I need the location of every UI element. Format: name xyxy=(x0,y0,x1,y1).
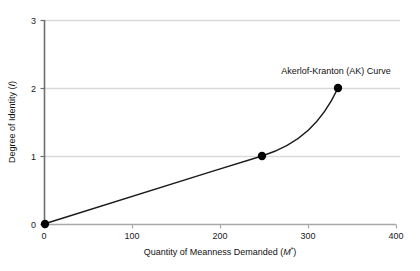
x-tick-label-300: 300 xyxy=(300,231,315,241)
y-tick-label-1: 1 xyxy=(31,152,36,162)
x-axis-title: Quantity of Meanness Demanded (M*) xyxy=(144,246,297,258)
y-tick-labels: 0 1 2 3 xyxy=(31,16,36,230)
y-axis-title: Degree of Identity (I) xyxy=(7,81,17,163)
y-axis-title-close: ) xyxy=(7,81,17,84)
x-axis-title-close: ) xyxy=(293,247,296,257)
y-tick-label-2: 2 xyxy=(31,84,36,94)
x-tick-labels: 0 100 200 300 400 xyxy=(41,231,403,241)
x-tick-label-200: 200 xyxy=(212,231,227,241)
x-tick-label-100: 100 xyxy=(124,231,139,241)
chart-figure: 0 100 200 300 400 0 1 2 3 Akerlof-Kranto… xyxy=(0,0,420,271)
y-tick-label-3: 3 xyxy=(31,16,36,26)
chart-canvas: 0 100 200 300 400 0 1 2 3 Akerlof-Kranto… xyxy=(0,0,420,271)
gridlines xyxy=(44,21,400,157)
x-axis-title-main: Quantity of Meanness Demanded ( xyxy=(144,247,284,257)
x-tick-label-400: 400 xyxy=(388,231,403,241)
data-point-origin xyxy=(41,220,49,228)
ak-curve-annotation: Akerlof-Kranton (AK) Curve xyxy=(281,66,391,76)
data-point-upper xyxy=(334,84,342,92)
x-tick-label-0: 0 xyxy=(41,231,46,241)
y-tick-label-0: 0 xyxy=(31,220,36,230)
y-axis-title-main: Degree of Identity ( xyxy=(7,86,17,163)
data-point-intermediate xyxy=(258,152,266,160)
